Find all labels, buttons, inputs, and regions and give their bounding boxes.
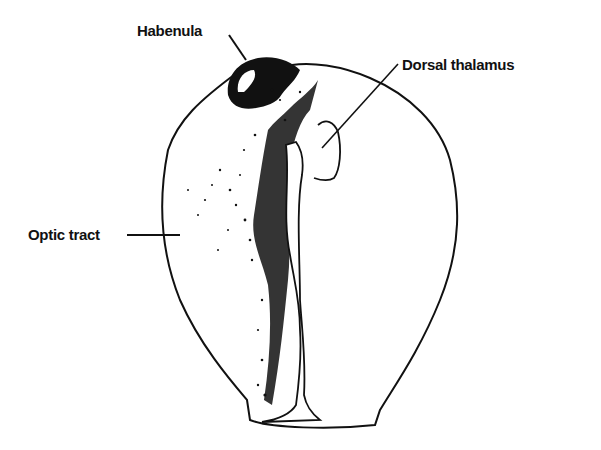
label-optic-tract: Optic tract bbox=[28, 226, 100, 243]
brain-outer-outline bbox=[162, 64, 457, 428]
diagram-canvas: Habenula Dorsal thalamus Optic tract bbox=[0, 0, 601, 450]
habenula-leader-line bbox=[229, 35, 246, 60]
label-habenula: Habenula bbox=[137, 22, 202, 39]
dorsal-thalamus-region bbox=[314, 121, 340, 180]
dorsal-thalamus-leader-line bbox=[322, 64, 398, 148]
label-dorsal-thalamus: Dorsal thalamus bbox=[402, 56, 514, 73]
midline-stippled-band bbox=[253, 80, 318, 405]
